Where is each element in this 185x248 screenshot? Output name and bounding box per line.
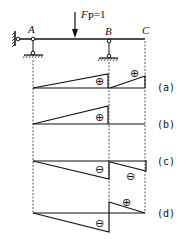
diagram-b xyxy=(33,106,145,124)
sign-d-ab: ⊖ xyxy=(95,217,104,230)
sign-c-bc: ⊖ xyxy=(126,170,135,183)
tag-b: (b) xyxy=(157,119,175,130)
sign-c-ab: ⊖ xyxy=(95,163,104,176)
tag-d: (d) xyxy=(157,208,175,219)
influence-line-diagram: A B C FP=1 ⊕ ⊕ ⊕ ⊖ ⊖ ⊖ ⊕ (a) (b) (c) (d) xyxy=(0,0,185,248)
sign-d-bc: ⊕ xyxy=(122,196,131,209)
sign-a-bc: ⊕ xyxy=(130,67,139,80)
point-label-b: B xyxy=(105,25,112,37)
hinge-wall xyxy=(16,37,20,41)
load-arrow xyxy=(72,12,78,38)
projection-lines xyxy=(33,41,145,214)
support-a xyxy=(23,37,43,58)
support-b xyxy=(98,39,118,61)
sign-a-ab: ⊕ xyxy=(95,75,104,88)
load-label: FP=1 xyxy=(80,8,106,22)
diagram-a xyxy=(33,74,145,88)
point-label-c: C xyxy=(142,24,150,36)
point-label-a: A xyxy=(27,23,35,35)
tag-c: (c) xyxy=(157,156,175,167)
tag-a: (a) xyxy=(157,82,175,93)
sign-b-ab: ⊕ xyxy=(95,111,104,124)
